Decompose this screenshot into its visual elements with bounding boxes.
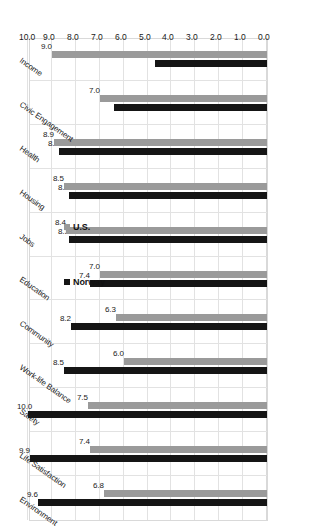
bar-value-label: 7.5 [77, 393, 88, 402]
legend-entry-u-s-[interactable]: U.S. [64, 222, 90, 232]
bar-us-environment[interactable] [104, 490, 267, 497]
bar-us-life-satisfaction[interactable] [90, 446, 267, 453]
legend-label: U.S. [73, 222, 90, 232]
bar-us-health[interactable] [54, 139, 267, 146]
bar-norway-work-life-balance[interactable] [64, 367, 267, 374]
legend-swatch-icon [64, 279, 70, 285]
bar-value-label: 7.0 [89, 86, 100, 95]
bar-value-label: 8.5 [53, 358, 64, 367]
legend-swatch-icon [64, 224, 70, 230]
bar-group: 9.97.4 [30, 432, 267, 476]
bar-value-label: 6.8 [93, 481, 104, 490]
bar-value-label: 6.3 [105, 305, 116, 314]
bar-us-housing[interactable] [64, 183, 267, 190]
chart-legend: NorwayU.S. [64, 196, 74, 277]
tick-label: 0.0 [258, 32, 270, 42]
bar-norway-housing[interactable] [69, 192, 267, 199]
tick-label: 8.0 [67, 32, 79, 42]
bar-value-label: 9.0 [41, 42, 52, 51]
bar-value-label: 7.4 [79, 437, 90, 446]
legend-entry-norway[interactable]: Norway [64, 277, 105, 287]
tick-label: 3.0 [186, 32, 198, 42]
chart-rotation-wrapper: 9.66.89.97.410.07.58.56.08.26.37.47.08.3… [0, 0, 335, 532]
bar-norway-income[interactable] [155, 60, 267, 67]
bar-norway-life-satisfaction[interactable] [30, 455, 267, 462]
bar-us-safety[interactable] [88, 402, 267, 409]
tick-label: 7.0 [91, 32, 103, 42]
bar-us-civic-engagement[interactable] [100, 95, 267, 102]
bar-value-label: 8.5 [53, 174, 64, 183]
bar-norway-safety[interactable] [28, 411, 267, 418]
bar-us-jobs[interactable] [66, 227, 267, 234]
bar-group: 4.79.0 [30, 37, 267, 81]
tick-label: 4.0 [162, 32, 174, 42]
bar-norway-health[interactable] [59, 148, 267, 155]
bar-group: 8.56.0 [30, 344, 267, 388]
bar-norway-jobs[interactable] [69, 236, 267, 243]
tick-label: 1.0 [234, 32, 246, 42]
bar-us-income[interactable] [52, 51, 267, 58]
tick-label: 10.0 [19, 32, 35, 42]
bar-group: 8.26.3 [30, 300, 267, 344]
tick-label: 9.0 [43, 32, 55, 42]
tick-label: 2.0 [210, 32, 222, 42]
bar-norway-community[interactable] [71, 323, 267, 330]
bar-us-work-life-balance[interactable] [124, 358, 267, 365]
bar-norway-environment[interactable] [38, 499, 267, 506]
legend-label: Norway [73, 277, 105, 287]
bar-us-education[interactable] [100, 271, 267, 278]
bar-group: 6.47.0 [30, 81, 267, 125]
tick-label: 6.0 [115, 32, 127, 42]
bar-us-community[interactable] [116, 314, 267, 321]
tick-label: 5.0 [139, 32, 151, 42]
bar-value-label: 8.2 [60, 314, 71, 323]
bar-chart-figure: 9.66.89.97.410.07.58.56.08.26.37.47.08.3… [0, 0, 335, 532]
bar-norway-civic-engagement[interactable] [114, 104, 267, 111]
bar-norway-education[interactable] [90, 280, 267, 287]
bar-value-label: 6.0 [113, 349, 124, 358]
bar-value-label: 7.0 [89, 262, 100, 271]
